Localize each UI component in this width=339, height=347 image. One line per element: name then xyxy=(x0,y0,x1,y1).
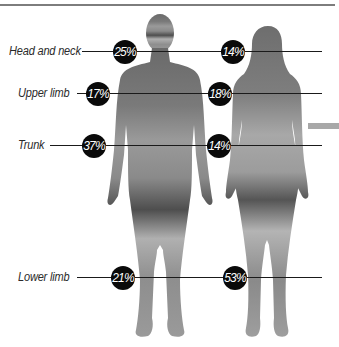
female-value-badge-trunk: 14% xyxy=(207,134,231,158)
male-value-badge-lower-limb: 21% xyxy=(111,266,135,290)
male-value-badge-head-and-neck: 25% xyxy=(113,40,137,64)
row-label-upper-limb: Upper limb xyxy=(18,86,69,100)
female-value-badge-head-and-neck: 14% xyxy=(221,40,245,64)
connector-line-upper-limb xyxy=(77,93,322,94)
female-value-badge-upper-limb: 18% xyxy=(208,82,232,106)
male-value-badge-trunk: 37% xyxy=(82,134,106,158)
row-label-head-and-neck: Head and neck xyxy=(9,44,81,58)
row-label-trunk: Trunk xyxy=(18,138,44,152)
male-value-badge-upper-limb: 17% xyxy=(86,82,110,106)
female-figure-icon xyxy=(226,26,309,337)
female-value-badge-lower-limb: 53% xyxy=(223,266,247,290)
row-label-lower-limb: Lower limb xyxy=(18,270,69,284)
